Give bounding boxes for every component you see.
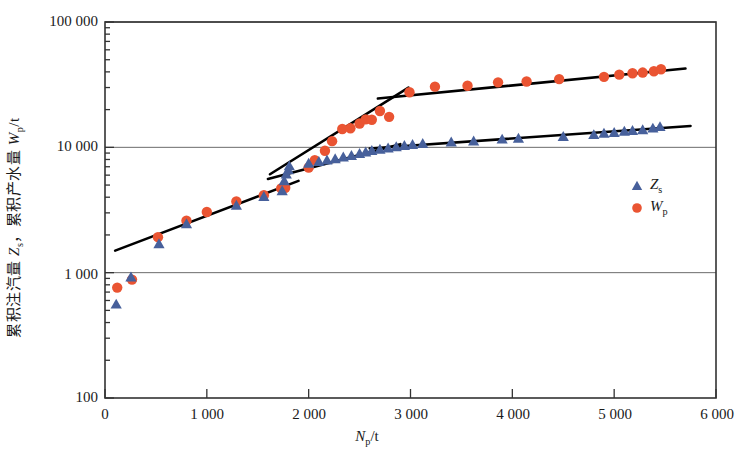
data-point-Wp	[112, 282, 122, 292]
data-point-Wp	[320, 146, 330, 156]
data-point-Zs	[417, 138, 428, 148]
data-point-Wp	[327, 136, 337, 146]
legend-marker-circle	[632, 203, 642, 213]
legend-marker-triangle	[632, 181, 642, 190]
data-point-Wp	[599, 72, 609, 82]
axis-ticks	[105, 22, 716, 398]
data-point-Wp	[493, 77, 503, 87]
data-point-Wp	[554, 74, 564, 84]
data-point-Wp	[367, 115, 377, 125]
series-zs-points	[111, 121, 666, 308]
legend-markers	[632, 181, 642, 213]
data-point-Zs	[111, 299, 122, 309]
data-point-Wp	[627, 68, 637, 78]
data-point-Wp	[614, 69, 624, 79]
data-point-Wp	[375, 106, 385, 116]
data-point-Zs	[654, 121, 665, 131]
data-point-Zs	[338, 152, 349, 162]
data-point-Wp	[345, 123, 355, 133]
fit-lines	[115, 69, 690, 251]
data-point-Wp	[521, 76, 531, 86]
data-point-Wp	[430, 81, 440, 91]
chart-figure: 累积注汽量 Zs，累积产水量 Wp/t Np/t 100 000 10 000 …	[0, 0, 746, 455]
data-point-Wp	[384, 112, 394, 122]
plot-frame	[105, 22, 716, 398]
data-point-Wp	[202, 207, 212, 217]
data-point-Wp	[404, 87, 414, 97]
data-point-Wp	[462, 81, 472, 91]
data-point-Zs	[330, 153, 341, 163]
data-point-Wp	[637, 67, 647, 77]
plot-canvas	[0, 0, 746, 455]
data-point-Wp	[656, 64, 666, 74]
